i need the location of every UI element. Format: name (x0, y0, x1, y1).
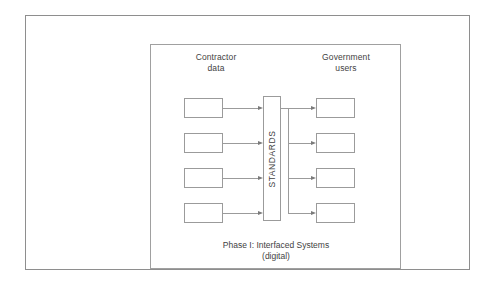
government-node-3 (316, 168, 355, 188)
figure-caption: Phase I: Interfaced Systems (digital) (176, 240, 376, 261)
outer-page-frame: Contractor data Government users STANDAR… (25, 15, 470, 270)
government-node-4 (316, 203, 355, 223)
contractor-node-2 (184, 133, 223, 153)
column-header-government-users: Government users (298, 52, 394, 73)
connector-contractor-4 (223, 213, 259, 214)
figure-root: Contractor data Government users STANDAR… (0, 0, 496, 284)
connector-government-4 (288, 213, 312, 214)
distribution-bus-line (288, 108, 289, 213)
connector-government-1 (288, 108, 312, 109)
connector-government-3 (288, 178, 312, 179)
contractor-node-3 (184, 168, 223, 188)
column-header-contractor-data: Contractor data (168, 52, 264, 73)
standards-bar: STANDARDS (263, 96, 281, 221)
government-node-2 (316, 133, 355, 153)
government-node-1 (316, 98, 355, 118)
connector-contractor-3 (223, 178, 259, 179)
connector-contractor-2 (223, 143, 259, 144)
standards-label: STANDARDS (267, 130, 277, 187)
contractor-node-1 (184, 98, 223, 118)
contractor-node-4 (184, 203, 223, 223)
connector-government-2 (288, 143, 312, 144)
connector-contractor-1 (223, 108, 259, 109)
